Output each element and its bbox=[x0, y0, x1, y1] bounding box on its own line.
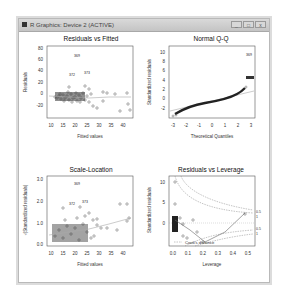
dense-point-cluster bbox=[52, 224, 88, 242]
y-axis-label: Standardized residuals bbox=[147, 186, 152, 233]
svg-text:373: 373 bbox=[82, 200, 88, 204]
svg-text:6: 6 bbox=[162, 68, 165, 73]
x-axis-label: Fitted values bbox=[77, 134, 103, 139]
r-app-icon bbox=[22, 22, 27, 27]
svg-text:372: 372 bbox=[69, 73, 75, 77]
svg-text:35: 35 bbox=[108, 251, 114, 256]
svg-text:0: 0 bbox=[162, 96, 165, 101]
minimize-button[interactable]: _ bbox=[231, 21, 242, 28]
x-axis-ticks: 10 15 20 25 30 35 40 bbox=[48, 123, 126, 128]
svg-text:40: 40 bbox=[120, 251, 126, 256]
plot-title: Normal Q-Q bbox=[193, 35, 228, 43]
svg-text:-1: -1 bbox=[197, 123, 201, 128]
svg-text:80: 80 bbox=[38, 46, 44, 51]
svg-text:15: 15 bbox=[60, 251, 66, 256]
svg-text:0.5: 0.5 bbox=[256, 227, 261, 231]
plot-area: Residuals vs Fitted 80 60 40 20 0 -20 10… bbox=[19, 32, 269, 282]
close-button[interactable]: x bbox=[255, 21, 266, 28]
window-title: R Graphics: Device 2 (ACTIVE) bbox=[30, 20, 114, 30]
svg-text:372: 372 bbox=[69, 202, 75, 206]
outlier-labels: 369 372 373 bbox=[69, 54, 90, 77]
outlier-labels: 369 372 373 bbox=[69, 182, 88, 206]
svg-text:0: 0 bbox=[40, 91, 43, 96]
svg-text:369: 369 bbox=[74, 182, 80, 186]
svg-text:373: 373 bbox=[84, 71, 90, 75]
svg-text:30: 30 bbox=[96, 251, 102, 256]
svg-text:0.0: 0.0 bbox=[170, 251, 177, 256]
qq-points-curve bbox=[175, 88, 245, 114]
y-axis-ticks: 10 5 0 bbox=[160, 180, 166, 226]
svg-text:-2: -2 bbox=[161, 106, 165, 111]
svg-text:0: 0 bbox=[211, 123, 214, 128]
outlier-label: 369 bbox=[246, 53, 252, 57]
svg-text:10: 10 bbox=[48, 251, 54, 256]
svg-text:25: 25 bbox=[84, 123, 90, 128]
svg-text:0: 0 bbox=[162, 221, 165, 226]
y-axis-label: Residuals bbox=[23, 71, 28, 92]
svg-text:3: 3 bbox=[250, 123, 253, 128]
svg-text:1: 1 bbox=[224, 123, 227, 128]
x-axis-label: Fitted values bbox=[77, 262, 103, 267]
plot-title: Residuals vs Fitted bbox=[64, 35, 119, 42]
y-axis-ticks: 80 60 40 20 0 -20 bbox=[36, 46, 43, 108]
svg-text:0.5: 0.5 bbox=[245, 251, 252, 256]
dense-point-cluster bbox=[172, 216, 178, 232]
svg-text:20: 20 bbox=[72, 123, 78, 128]
residuals-vs-leverage-plot: Residuals vs Leverage 10 5 0 0.0 0.1 0.2… bbox=[145, 158, 271, 270]
cooks-distance-contours bbox=[175, 176, 253, 246]
x-axis-ticks: 10 15 20 25 30 35 40 bbox=[48, 251, 126, 256]
plot-title: Scale-Location bbox=[70, 166, 113, 173]
svg-text:40: 40 bbox=[38, 68, 44, 73]
svg-text:8: 8 bbox=[162, 59, 165, 64]
svg-text:-3: -3 bbox=[171, 123, 175, 128]
svg-text:2: 2 bbox=[162, 87, 165, 92]
svg-text:0.1: 0.1 bbox=[185, 251, 192, 256]
svg-text:-2: -2 bbox=[184, 123, 188, 128]
svg-text:30: 30 bbox=[96, 123, 102, 128]
svg-text:20: 20 bbox=[38, 80, 44, 85]
svg-text:0.5: 0.5 bbox=[256, 210, 261, 214]
title-bar[interactable]: R Graphics: Device 2 (ACTIVE) _ □ x bbox=[19, 19, 269, 32]
scatter-points bbox=[174, 181, 246, 243]
svg-text:10: 10 bbox=[160, 180, 166, 185]
smoother-line bbox=[175, 213, 245, 242]
svg-text:4: 4 bbox=[162, 78, 165, 83]
svg-text:0.2: 0.2 bbox=[200, 251, 207, 256]
x-axis-ticks: 0.0 0.1 0.2 0.3 0.4 0.5 bbox=[170, 251, 252, 256]
svg-text:369: 369 bbox=[74, 54, 80, 58]
svg-text:2.0: 2.0 bbox=[37, 199, 44, 204]
scale-location-plot: Scale-Location 3.0 2.0 1.0 0.0 10 15 20 … bbox=[19, 158, 145, 270]
svg-text:60: 60 bbox=[38, 57, 44, 62]
svg-text:1.0: 1.0 bbox=[37, 221, 44, 226]
svg-text:1: 1 bbox=[256, 232, 258, 236]
svg-text:10: 10 bbox=[160, 50, 166, 55]
svg-text:0.3: 0.3 bbox=[215, 251, 222, 256]
normal-qq-plot: Normal Q-Q 10 8 6 4 2 0 -2 -3 -2 -1 0 1 … bbox=[145, 32, 271, 144]
svg-text:10: 10 bbox=[48, 123, 54, 128]
svg-text:-20: -20 bbox=[36, 103, 43, 108]
x-axis-ticks: -3 -2 -1 0 1 2 3 bbox=[171, 123, 253, 128]
x-axis-label: Leverage bbox=[203, 262, 222, 267]
residuals-vs-fitted-plot: Residuals vs Fitted 80 60 40 20 0 -20 10… bbox=[19, 32, 145, 144]
contour-labels: 0.5 1 0.5 1 bbox=[256, 210, 261, 236]
svg-text:35: 35 bbox=[108, 123, 114, 128]
svg-text:15: 15 bbox=[60, 123, 66, 128]
outlier-points bbox=[246, 76, 254, 79]
y-axis-label: Standardized residuals bbox=[147, 58, 152, 105]
svg-text:0.4: 0.4 bbox=[230, 251, 237, 256]
y-axis-label: √|Standardized residuals| bbox=[23, 185, 28, 236]
cooks-distance-legend: Cook's distance bbox=[185, 240, 215, 245]
svg-text:25: 25 bbox=[84, 251, 90, 256]
svg-text:0.0: 0.0 bbox=[37, 242, 44, 247]
svg-text:40: 40 bbox=[120, 123, 126, 128]
svg-text:20: 20 bbox=[72, 251, 78, 256]
r-graphics-window: R Graphics: Device 2 (ACTIVE) _ □ x Resi… bbox=[18, 18, 270, 283]
x-axis-label: Theoretical Quantiles bbox=[191, 134, 234, 139]
y-axis-ticks: 10 8 6 4 2 0 -2 bbox=[160, 50, 166, 111]
svg-text:3.0: 3.0 bbox=[37, 177, 44, 182]
y-axis-ticks: 3.0 2.0 1.0 0.0 bbox=[37, 177, 44, 247]
svg-text:1: 1 bbox=[256, 215, 258, 219]
svg-text:5: 5 bbox=[162, 200, 165, 205]
svg-text:2: 2 bbox=[237, 123, 240, 128]
maximize-button[interactable]: □ bbox=[243, 21, 254, 28]
